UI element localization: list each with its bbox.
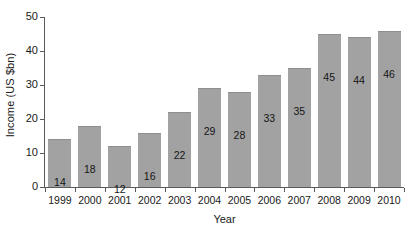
x-tick-label: 2006: [254, 194, 284, 206]
x-tick-mark: [45, 188, 46, 192]
x-tick-mark: [374, 188, 375, 192]
y-tick-label: 10: [12, 147, 38, 158]
y-tick-label: 50: [12, 11, 38, 22]
x-tick-label: 2007: [284, 194, 314, 206]
bar-value-label: 33: [258, 113, 281, 124]
y-tick-mark: [40, 153, 44, 154]
x-tick-label: 2004: [195, 194, 225, 206]
y-tick-label: 20: [12, 113, 38, 124]
x-tick-mark: [344, 188, 345, 192]
x-axis-tick-labels: 1999200020012002200320042005200620072008…: [45, 194, 404, 208]
x-tick-label: 2008: [314, 194, 344, 206]
y-tick-mark: [40, 85, 44, 86]
y-tick-label: 0: [12, 181, 38, 192]
x-tick-label: 2009: [344, 194, 374, 206]
bar[interactable]: 12: [108, 146, 131, 187]
y-tick-mark: [40, 187, 44, 188]
y-tick-label: 30: [12, 79, 38, 90]
x-tick-mark: [105, 188, 106, 192]
bar-value-label: 16: [138, 171, 161, 182]
plot-area: 141812162229283335454446: [45, 17, 404, 187]
bar-value-label: 22: [168, 150, 191, 161]
bar[interactable]: 28: [228, 92, 251, 187]
x-tick-mark: [135, 188, 136, 192]
x-tick-mark: [284, 188, 285, 192]
x-tick-mark: [195, 188, 196, 192]
y-axis-tick-labels: 01020304050: [12, 0, 38, 236]
x-tick-mark: [225, 188, 226, 192]
y-tick-mark: [40, 119, 44, 120]
bar-chart: Income (US $bn) 01020304050 141812162229…: [0, 0, 415, 236]
bar-value-label: 35: [288, 106, 311, 117]
x-axis-title: Year: [45, 213, 404, 225]
x-tick-mark: [75, 188, 76, 192]
x-tick-label: 2002: [135, 194, 165, 206]
bar-value-label: 46: [378, 69, 401, 80]
bar[interactable]: 22: [168, 112, 191, 187]
bar-value-label: 29: [198, 126, 221, 137]
x-tick-label: 2003: [165, 194, 195, 206]
bar-value-label: 18: [78, 164, 101, 175]
x-tick-label: 2001: [105, 194, 135, 206]
bar[interactable]: 35: [288, 68, 311, 187]
bar[interactable]: 18: [78, 126, 101, 187]
bar-value-label: 45: [318, 72, 341, 83]
x-tick-label: 2010: [374, 194, 404, 206]
x-tick-mark: [165, 188, 166, 192]
bar[interactable]: 46: [378, 31, 401, 187]
y-tick-mark: [40, 17, 44, 18]
bar-value-label: 28: [228, 130, 251, 141]
x-tick-mark: [254, 188, 255, 192]
y-tick-mark: [40, 51, 44, 52]
x-tick-mark: [314, 188, 315, 192]
x-tick-label: 2000: [75, 194, 105, 206]
bar[interactable]: 29: [198, 88, 221, 187]
bar-value-label: 14: [48, 177, 71, 188]
bar[interactable]: 33: [258, 75, 281, 187]
bar[interactable]: 16: [138, 133, 161, 187]
bar[interactable]: 44: [348, 37, 371, 187]
x-tick-label: 2005: [225, 194, 255, 206]
x-tick-mark: [404, 188, 405, 192]
y-tick-label: 40: [12, 45, 38, 56]
bar-value-label: 44: [348, 75, 371, 86]
bar[interactable]: 45: [318, 34, 341, 187]
x-tick-label: 1999: [45, 194, 75, 206]
bar[interactable]: 14: [48, 139, 71, 187]
x-axis-line: [44, 187, 404, 188]
